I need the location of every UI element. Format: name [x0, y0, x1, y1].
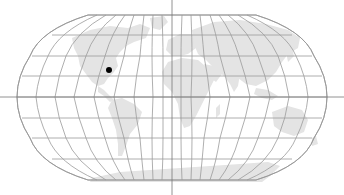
south-america	[108, 98, 142, 156]
meridian-20w	[162, 15, 163, 180]
central-america	[98, 86, 114, 102]
world-map[interactable]	[0, 0, 344, 195]
location-marker[interactable]	[106, 67, 112, 73]
madagascar	[216, 104, 220, 118]
antarctica	[90, 162, 280, 182]
land-masses	[72, 16, 318, 182]
crosshair	[0, 0, 344, 195]
india	[228, 74, 240, 92]
north-america	[72, 24, 150, 86]
southeast-asia	[254, 88, 278, 100]
meridian-40w	[152, 15, 153, 180]
